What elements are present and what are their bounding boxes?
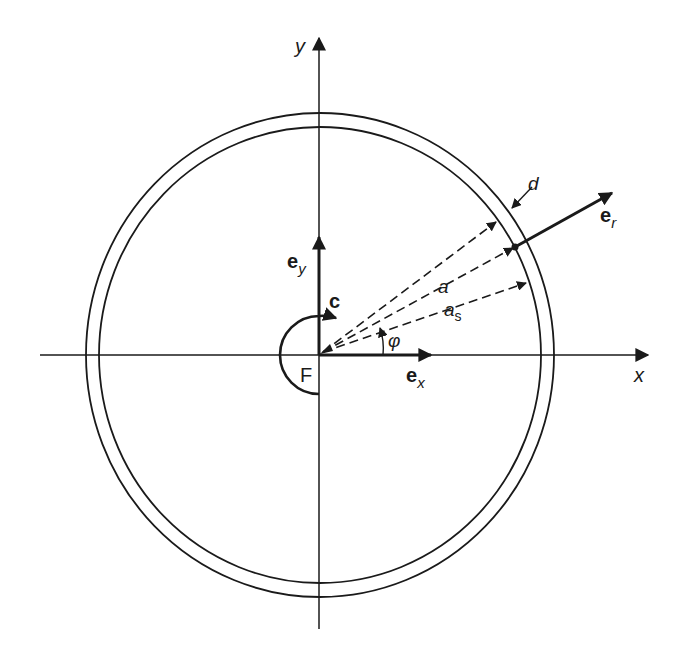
- orbit-diagram: y x F c ey ex er a as d φ: [0, 0, 685, 662]
- ey-label: ey: [287, 250, 307, 277]
- radius-a-label: a: [438, 276, 449, 297]
- er-label: er: [600, 204, 617, 231]
- y-axis-label: y: [293, 35, 306, 57]
- thickness-d-label: d: [528, 173, 540, 194]
- origin-label-f: F: [300, 364, 312, 386]
- dashed-radius-as: [323, 283, 526, 352]
- dashed-radius-a: [323, 248, 513, 352]
- x-axis-label: x: [633, 364, 645, 386]
- er-vector-arrow: [515, 193, 612, 247]
- dashed-radius-outer: [323, 222, 496, 352]
- origin-arrowhead: [320, 344, 333, 354]
- ex-label: ex: [406, 364, 425, 391]
- radius-as-label: as: [444, 299, 462, 324]
- diagram-canvas: y x F c ey ex er a as d φ: [0, 0, 685, 662]
- rotation-label-c: c: [329, 290, 340, 312]
- angle-phi-label: φ: [388, 330, 400, 351]
